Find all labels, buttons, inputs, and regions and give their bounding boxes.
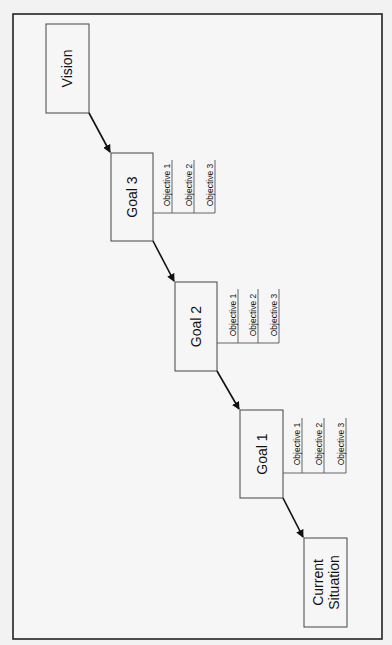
goal2-label: Goal 2	[188, 306, 204, 347]
current-situation-node: Current Situation	[304, 538, 347, 627]
goal-diagram: Vision Goal 3 Objective 1 Objective 2 Ob…	[0, 0, 392, 645]
vision-label: Vision	[59, 50, 75, 88]
vision-node: Vision	[46, 24, 89, 113]
goal1-objective-2: Objective 2	[314, 422, 324, 465]
current-situation-label-line2: Situation	[326, 555, 342, 609]
goal3-objective-3: Objective 3	[205, 163, 215, 206]
goal3-objective-2: Objective 2	[184, 163, 194, 206]
goal1-objective-1: Objective 1	[292, 422, 302, 465]
goal3-label: Goal 3	[124, 176, 140, 217]
current-situation-label-line1: Current	[310, 559, 326, 606]
goal1-objectives: Objective 1 Objective 2 Objective 3	[283, 418, 346, 473]
goal2-objective-3: Objective 3	[269, 293, 279, 336]
goal1-label: Goal 1	[254, 433, 270, 474]
goal3-objectives: Objective 1 Objective 2 Objective 3	[153, 160, 215, 213]
goal1-objective-3: Objective 3	[336, 422, 346, 465]
goal2-objective-2: Objective 2	[248, 293, 258, 336]
goal2-objective-1: Objective 1	[228, 293, 238, 336]
goal3-objective-1: Objective 1	[162, 163, 172, 206]
